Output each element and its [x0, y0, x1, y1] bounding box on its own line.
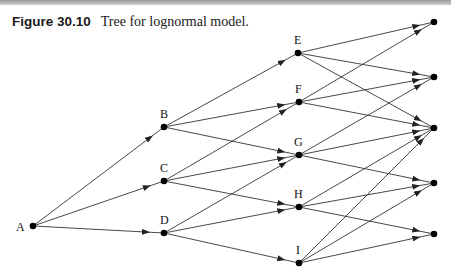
tree-edges	[33, 22, 434, 263]
node-c	[161, 178, 168, 185]
edge-B-F	[164, 102, 299, 127]
node-label-f: F	[295, 82, 302, 96]
node-r1	[431, 19, 438, 26]
edge-G-R2	[299, 77, 434, 155]
node-r4	[431, 180, 438, 187]
node-b	[161, 124, 168, 131]
edge-A-B	[33, 127, 164, 226]
edge-F-R1	[299, 22, 434, 102]
edge-F-R3	[299, 102, 434, 128]
edge-A-D	[33, 226, 164, 233]
edge-B-E	[164, 53, 298, 127]
edge-E-R2	[298, 53, 434, 77]
node-r2	[431, 74, 438, 81]
node-label-h: H	[294, 187, 303, 201]
node-label-c: C	[160, 161, 168, 175]
edge-C-G	[164, 155, 299, 181]
node-label-b: B	[160, 107, 168, 121]
edge-C-F	[164, 102, 299, 181]
node-i	[296, 260, 303, 267]
edge-D-G	[164, 155, 299, 233]
node-label-e: E	[294, 33, 301, 47]
node-label-g: G	[294, 135, 303, 149]
edge-I-R5	[299, 234, 434, 263]
edge-G-R3	[299, 128, 434, 155]
node-e	[295, 50, 302, 57]
node-label-i: I	[296, 243, 300, 257]
node-g	[296, 152, 303, 159]
node-h	[296, 204, 303, 211]
node-label-a: A	[16, 220, 25, 234]
node-label-d: D	[160, 213, 169, 227]
node-a	[30, 223, 37, 230]
edge-D-H	[164, 207, 299, 233]
node-r3	[431, 125, 438, 132]
node-r5	[431, 231, 438, 238]
node-d	[161, 230, 168, 237]
tree-nodes: ABCDEFGHI	[16, 19, 437, 267]
edge-A-C	[33, 181, 164, 226]
edge-G-R4	[299, 155, 434, 183]
node-f	[296, 99, 303, 106]
edge-H-R5	[299, 207, 434, 234]
edge-E-R1	[298, 22, 434, 53]
edge-D-I	[164, 233, 299, 263]
tree-diagram: ABCDEFGHI	[0, 0, 451, 279]
